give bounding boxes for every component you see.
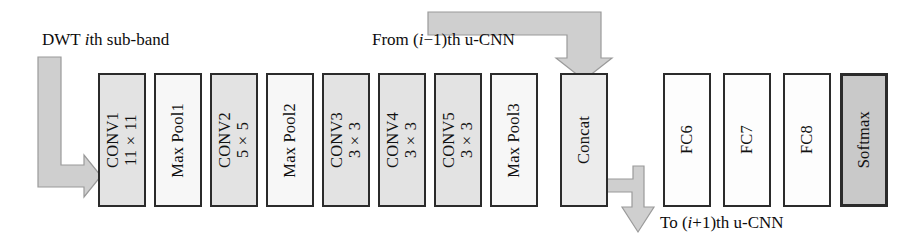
layer-label-conv2: CONV25×5	[216, 112, 253, 168]
layer-box-maxpool1[interactable]: Max Pool1	[154, 73, 202, 207]
layer-label-line1-fc6: FC6	[678, 125, 696, 154]
layer-label-line2-conv3: 3×3	[346, 112, 364, 168]
layer-label-line1-fc8: FC8	[798, 125, 816, 154]
layer-label-line1-conv3: CONV3	[328, 112, 346, 168]
layer-label-fc6: FC6	[678, 125, 696, 154]
layer-label-line1-conv1: CONV1	[104, 112, 122, 168]
layer-box-concat[interactable]: Concat	[560, 73, 608, 207]
layer-label-softmax: Softmax	[855, 111, 873, 168]
layer-box-conv1[interactable]: CONV111×11	[98, 73, 146, 207]
caption-dwt-post: th sub-band	[89, 30, 169, 49]
layer-label-fc8: FC8	[798, 125, 816, 154]
caption-from-prev-ucnn: From (i−1)th u-CNN	[372, 30, 515, 50]
layer-box-softmax[interactable]: Softmax	[840, 73, 888, 207]
caption-from-pre: From (	[372, 30, 419, 49]
layer-box-fc7[interactable]: FC7	[723, 73, 771, 207]
layer-box-conv2[interactable]: CONV25×5	[210, 73, 258, 207]
layer-box-fc6[interactable]: FC6	[663, 73, 711, 207]
layer-label-conv5: CONV53×3	[440, 112, 477, 168]
layer-label-line2-conv5: 3×3	[458, 112, 476, 168]
ucnn-architecture-diagram: DWT ith sub-band From (i−1)th u-CNN To (…	[0, 0, 897, 252]
caption-dwt-pre: DWT	[42, 30, 85, 49]
layer-label-line1-maxpool3: Max Pool3	[505, 103, 523, 178]
layer-label-line1-concat: Concat	[575, 116, 593, 164]
layer-box-maxpool3[interactable]: Max Pool3	[490, 73, 538, 207]
input-arrow	[38, 57, 101, 197]
layer-label-conv4: CONV43×3	[384, 112, 421, 168]
layer-box-conv4[interactable]: CONV43×3	[378, 73, 426, 207]
layer-box-conv3[interactable]: CONV33×3	[322, 73, 370, 207]
layer-label-line1-conv5: CONV5	[440, 112, 458, 168]
layer-label-line1-softmax: Softmax	[855, 111, 873, 168]
layer-box-maxpool2[interactable]: Max Pool2	[266, 73, 314, 207]
layer-label-fc7: FC7	[738, 125, 756, 154]
layer-label-conv1: CONV111×11	[104, 112, 141, 168]
caption-to-next-ucnn: To (i+1)th u-CNN	[660, 213, 784, 233]
layer-label-maxpool3: Max Pool3	[505, 103, 523, 178]
to-next-arrow	[600, 166, 654, 232]
layer-label-line2-conv4: 3×3	[402, 112, 420, 168]
caption-dwt-input: DWT ith sub-band	[42, 30, 169, 50]
caption-to-post: +1)th u-CNN	[692, 213, 783, 232]
layer-label-line2-conv1: 11×11	[122, 112, 140, 168]
layer-label-line2-conv2: 5×5	[234, 112, 252, 168]
layer-label-line1-conv4: CONV4	[384, 112, 402, 168]
layer-label-line1-fc7: FC7	[738, 125, 756, 154]
layer-box-fc8[interactable]: FC8	[783, 73, 831, 207]
layer-label-maxpool1: Max Pool1	[169, 103, 187, 178]
layer-label-line1-conv2: CONV2	[216, 112, 234, 168]
layer-label-line1-maxpool1: Max Pool1	[169, 103, 187, 178]
layer-box-conv5[interactable]: CONV53×3	[434, 73, 482, 207]
layer-label-conv3: CONV33×3	[328, 112, 365, 168]
layer-label-concat: Concat	[575, 116, 593, 164]
caption-to-pre: To (	[660, 213, 688, 232]
layer-label-maxpool2: Max Pool2	[281, 103, 299, 178]
layer-label-line1-maxpool2: Max Pool2	[281, 103, 299, 178]
caption-from-post: −1)th u-CNN	[423, 30, 514, 49]
